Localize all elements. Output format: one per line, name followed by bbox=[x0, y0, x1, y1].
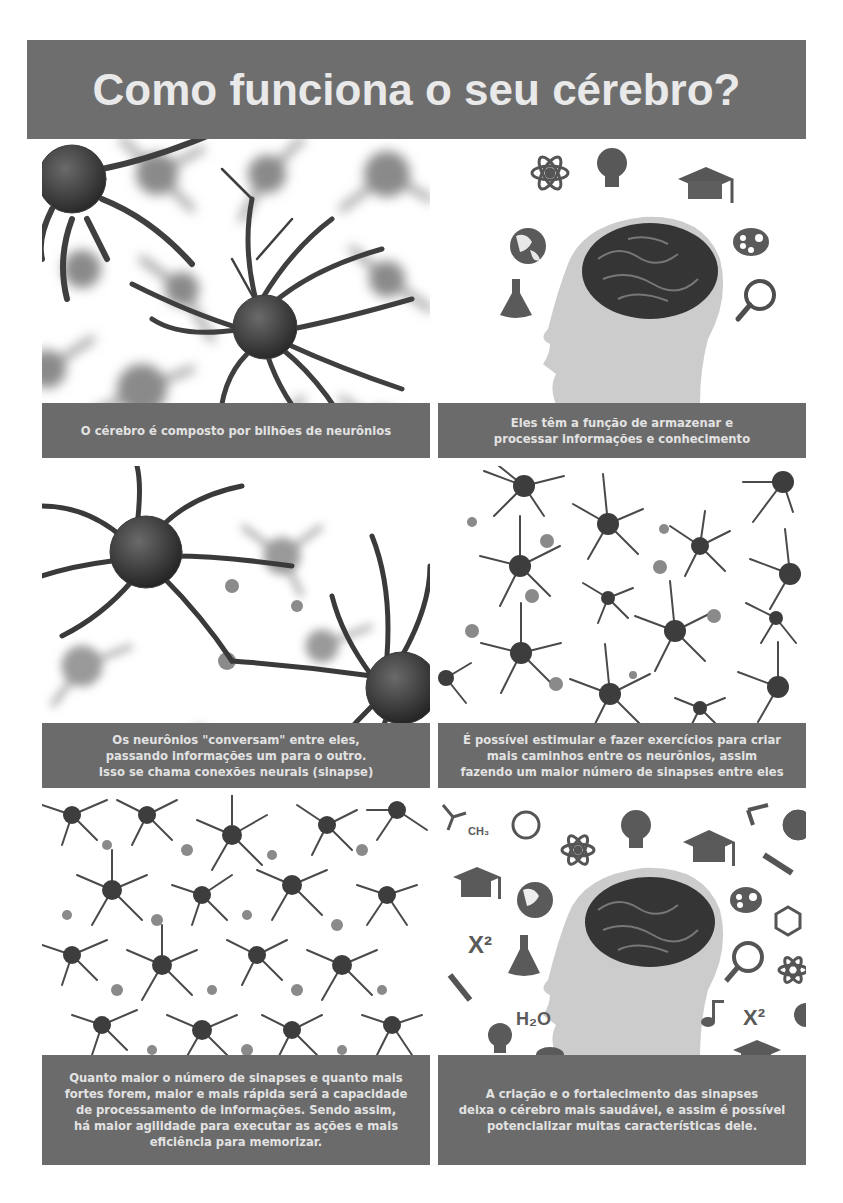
palette-icon bbox=[730, 887, 762, 913]
check-icon bbox=[748, 805, 768, 825]
atom-icon bbox=[532, 154, 568, 192]
footer-cutoff bbox=[0, 1188, 843, 1203]
palette-icon bbox=[733, 228, 769, 256]
lightbulb-icon bbox=[794, 1003, 806, 1027]
ruler-icon bbox=[764, 855, 792, 873]
x-squared-icon: X² bbox=[743, 1005, 765, 1030]
graduation-cap-icon bbox=[678, 167, 734, 203]
panel-neurons-closeup: O cérebro é composto por bilhões de neur… bbox=[42, 139, 430, 458]
svg-text:CH₃: CH₃ bbox=[468, 825, 489, 837]
atom-icon bbox=[779, 955, 806, 984]
globe-icon bbox=[783, 810, 806, 840]
graduation-cap-icon bbox=[683, 830, 735, 866]
caption-3: Os neurônios "conversam" entre eles, pas… bbox=[42, 723, 430, 788]
h2o-icon: H₂O bbox=[516, 1009, 551, 1029]
panel-dense-network: Quanto maior o número de sinapses e quan… bbox=[42, 795, 430, 1165]
magnifier-icon bbox=[738, 281, 774, 319]
brain-icon bbox=[585, 877, 715, 967]
caption-4: É possível estimular e fazer exercícios … bbox=[438, 723, 806, 788]
lightbulb-icon bbox=[621, 810, 651, 848]
chemistry-ch3-icon bbox=[443, 805, 466, 830]
flask-icon bbox=[508, 935, 540, 976]
lightbulb-icon bbox=[597, 148, 627, 187]
title-banner: Como funciona o seu cérebro? bbox=[27, 40, 806, 139]
x-squared-icon: X² bbox=[468, 931, 492, 958]
caption-6: A criação e o fortalecimento das sinapse… bbox=[438, 1055, 806, 1165]
panel-head-many-icons: CH₃ X² bbox=[438, 795, 806, 1165]
ring-icon bbox=[513, 812, 539, 838]
benzene-icon bbox=[776, 907, 800, 935]
graduation-cap-icon bbox=[453, 867, 501, 899]
flask-icon bbox=[500, 279, 532, 318]
magnifier-icon bbox=[726, 943, 762, 981]
ruler-icon bbox=[450, 975, 470, 1000]
page-title: Como funciona o seu cérebro? bbox=[93, 65, 741, 115]
globe-icon bbox=[510, 228, 546, 264]
globe-icon bbox=[517, 882, 553, 918]
caption-5: Quanto maior o número de sinapses e quan… bbox=[42, 1055, 430, 1165]
panel-neuron-network: É possível estimular e fazer exercícios … bbox=[438, 466, 806, 788]
caption-1: O cérebro é composto por bilhões de neur… bbox=[42, 403, 430, 458]
panel-neurons-synapse: Os neurônios "conversam" entre eles, pas… bbox=[42, 466, 430, 788]
panel-head-brain-icons: Eles têm a função de armazenar e process… bbox=[438, 139, 806, 458]
caption-2: Eles têm a função de armazenar e process… bbox=[438, 403, 806, 458]
lightbulb-icon bbox=[488, 1023, 512, 1053]
atom-icon bbox=[562, 833, 594, 867]
